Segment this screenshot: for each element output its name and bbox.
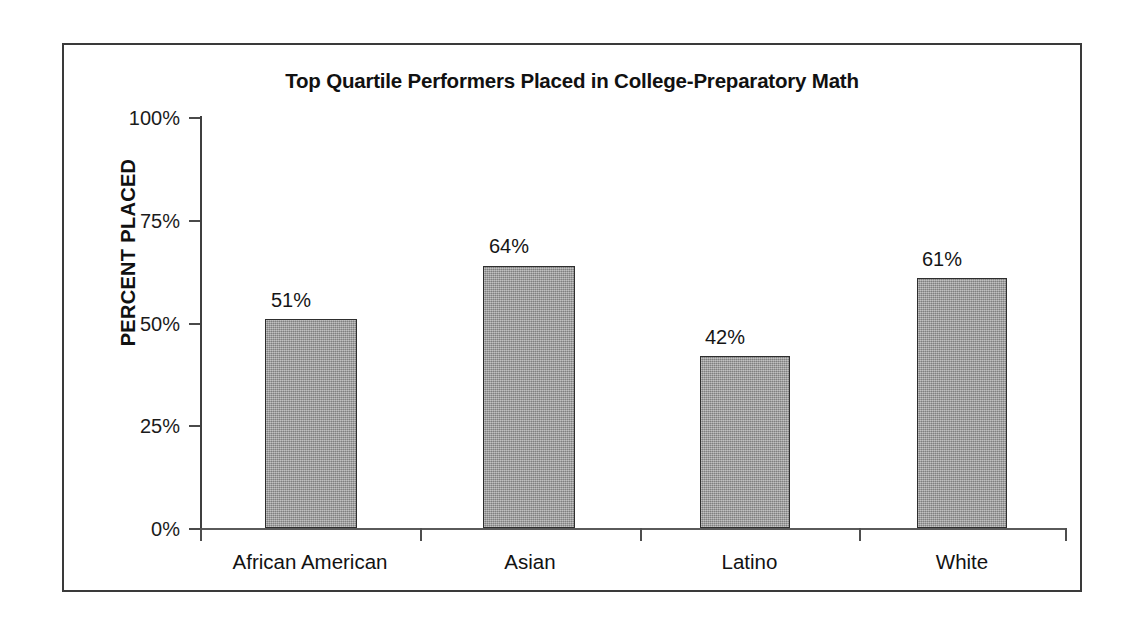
category-tick-4 xyxy=(1065,528,1067,541)
bar-value-white: 61% xyxy=(897,248,987,271)
category-label-white: White xyxy=(859,550,1065,574)
y-tick-75 xyxy=(189,220,200,222)
y-tick-50 xyxy=(189,323,200,325)
chart-title: Top Quartile Performers Placed in Colleg… xyxy=(64,69,1080,93)
category-label-latino: Latino xyxy=(640,550,859,574)
bar-latino[interactable] xyxy=(700,356,790,528)
bar-value-asian: 64% xyxy=(463,235,555,258)
y-tick-label-50: 50% xyxy=(90,313,180,336)
y-tick-label-0: 0% xyxy=(90,518,180,541)
y-tick-25 xyxy=(189,425,200,427)
category-tick-1 xyxy=(420,528,422,541)
bar-value-african-american: 51% xyxy=(245,289,337,312)
bar-white[interactable] xyxy=(917,278,1007,528)
category-tick-2 xyxy=(640,528,642,541)
category-label-african-american: African American xyxy=(200,550,420,574)
category-tick-0 xyxy=(200,528,202,541)
figure-frame: Top Quartile Performers Placed in Colleg… xyxy=(62,43,1082,592)
bar-asian[interactable] xyxy=(483,266,575,528)
plot-area xyxy=(200,118,1067,528)
bar-african-american[interactable] xyxy=(265,319,357,528)
bar-value-latino: 42% xyxy=(680,326,770,349)
y-tick-label-75: 75% xyxy=(90,210,180,233)
category-tick-3 xyxy=(859,528,861,541)
y-tick-label-100: 100% xyxy=(90,107,180,130)
y-tick-0 xyxy=(189,528,200,530)
y-tick-100 xyxy=(189,117,200,119)
y-tick-label-25: 25% xyxy=(90,415,180,438)
x-axis-line xyxy=(200,528,1067,530)
category-label-asian: Asian xyxy=(420,550,640,574)
